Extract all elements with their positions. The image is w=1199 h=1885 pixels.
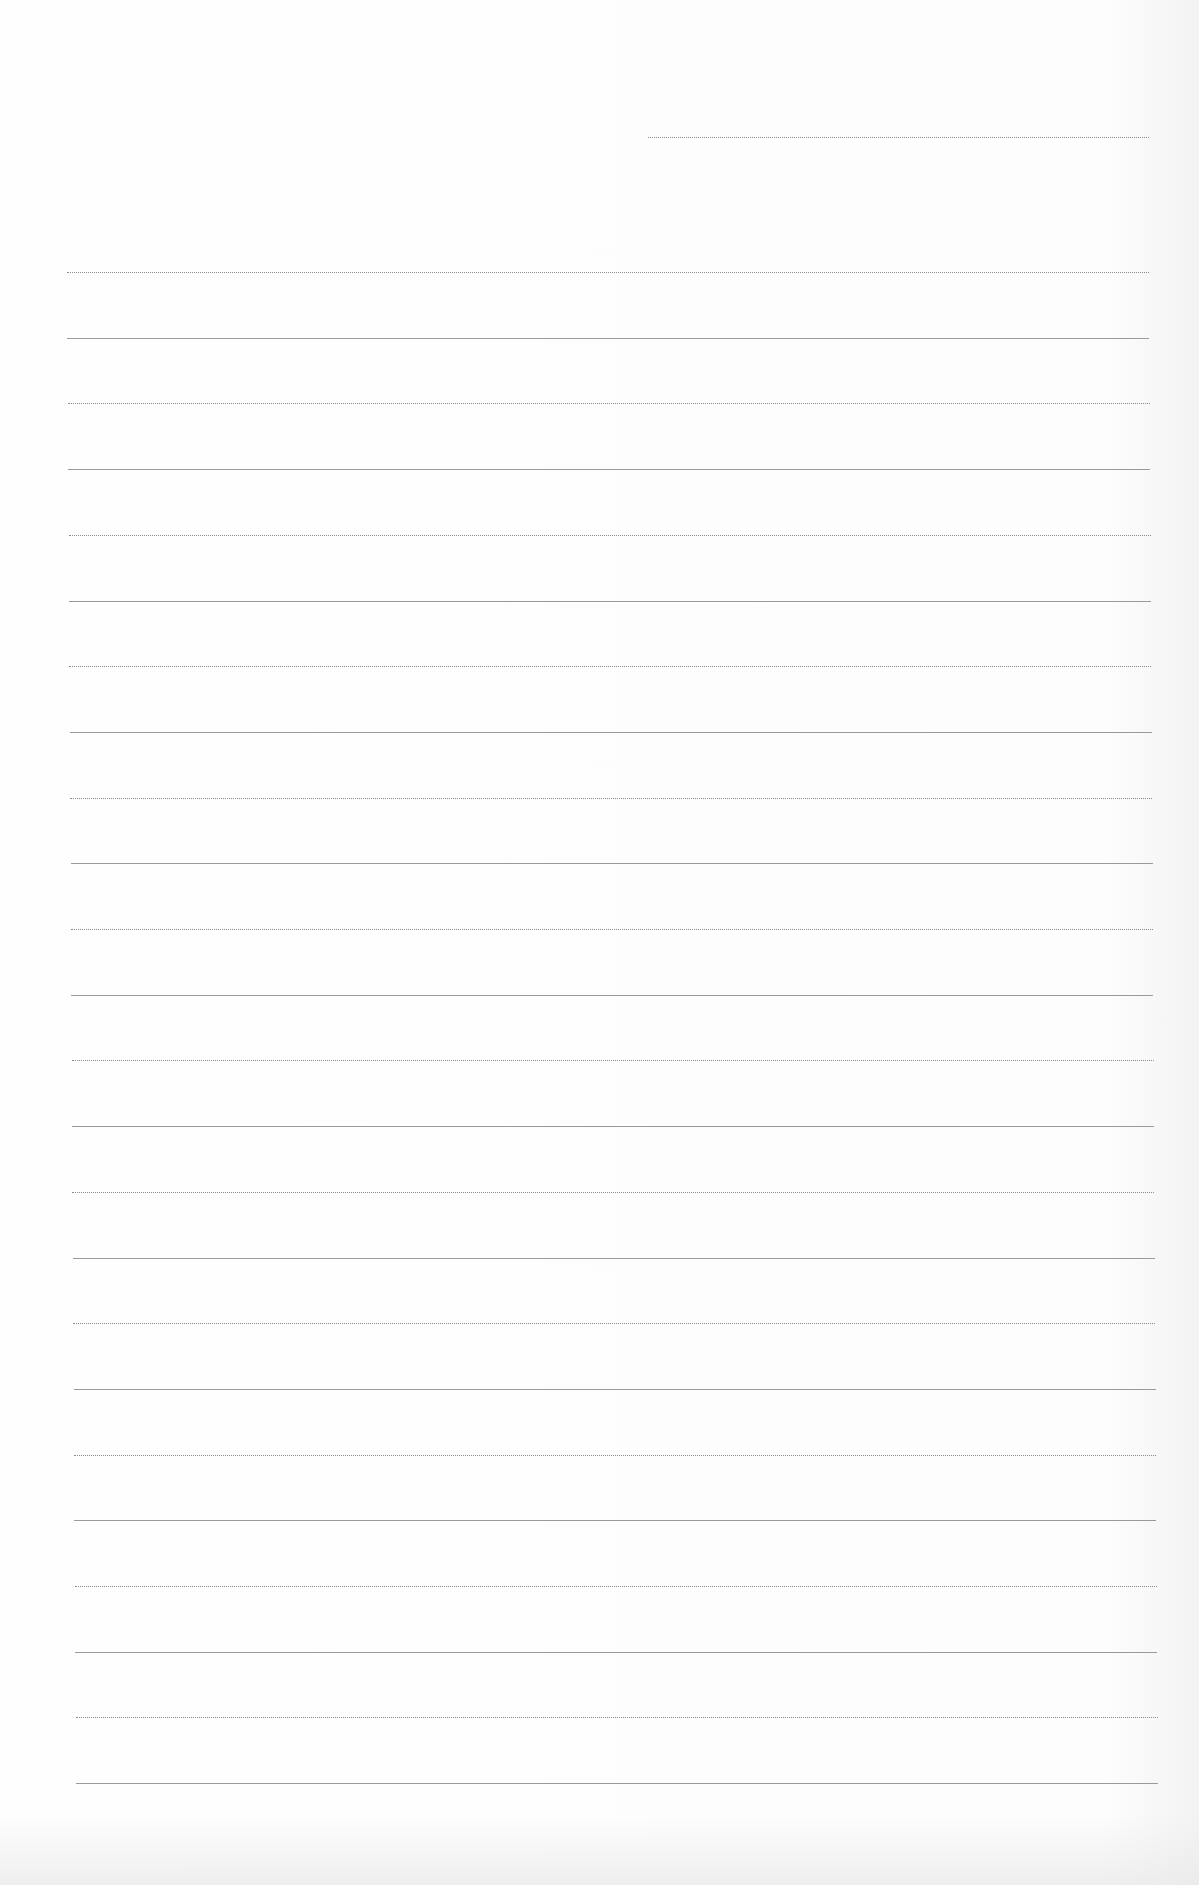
ruled-line: [70, 798, 1152, 799]
ruled-line: [68, 469, 1150, 470]
ruled-line: [74, 1389, 1156, 1390]
ruled-line: [74, 1520, 1156, 1521]
ruled-line: [69, 666, 1151, 667]
ruled-line: [75, 1652, 1157, 1653]
ruled-line: [72, 1192, 1154, 1193]
ruled-line: [70, 732, 1152, 733]
ruled-line: [67, 338, 1149, 339]
ruled-line: [73, 1323, 1155, 1324]
ruled-line: [75, 1586, 1157, 1587]
ruled-line: [68, 403, 1150, 404]
ruled-line: [71, 863, 1153, 864]
ruled-line: [71, 929, 1153, 930]
ruled-line: [73, 1258, 1155, 1259]
ruled-line: [67, 272, 1149, 273]
ruled-line: [76, 1717, 1158, 1718]
lined-paper-sheet: [0, 0, 1199, 1885]
ruled-line: [71, 995, 1153, 996]
ruled-line: [69, 535, 1151, 536]
ruled-line: [72, 1060, 1154, 1061]
ruled-line: [76, 1783, 1158, 1784]
ruled-line: [74, 1455, 1156, 1456]
ruled-lines: [0, 0, 1199, 1885]
ruled-line: [72, 1126, 1154, 1127]
ruled-line: [69, 601, 1151, 602]
